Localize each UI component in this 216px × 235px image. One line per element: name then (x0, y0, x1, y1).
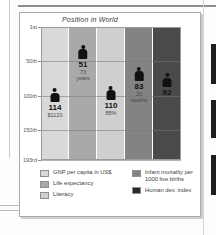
legend-swatch (132, 187, 141, 194)
legend-swatch (132, 170, 141, 177)
legend-item[interactable]: Life expectancy (40, 180, 126, 188)
legend-item-label: GNP per capita in US$ (53, 169, 112, 176)
y-axis-tick-label: 193rd (23, 157, 37, 163)
legend-item-label: Infant mortality per1000 live births (145, 169, 193, 183)
y-axis-tick-label: 100th (23, 93, 37, 99)
chart-title: Position in World (62, 16, 118, 23)
page-side-tab-2 (211, 100, 216, 138)
page-left-rule-lower (0, 210, 20, 211)
page-side-tab-1 (211, 44, 216, 84)
legend-item[interactable]: Human dev. index (132, 187, 202, 195)
y-axis: 1st50th100th150th193rd (20, 27, 41, 160)
page-right-margin-line (203, 0, 204, 235)
y-axis-tick-label: 50th (26, 58, 37, 64)
legend-item[interactable]: Infant mortality per1000 live births (132, 169, 202, 183)
chart-legend: GNP per capita in US$Life expectancyLite… (40, 169, 198, 211)
legend-column-right: Infant mortality per1000 live birthsHuma… (132, 169, 202, 198)
legend-item-label: Life expectancy (53, 180, 93, 187)
legend-swatch (40, 170, 49, 177)
page-left-rule-upper (0, 205, 20, 206)
legend-item-label: Literacy (53, 191, 73, 198)
legend-item[interactable]: Literacy (40, 191, 126, 199)
y-axis-tick-label: 1st (30, 24, 37, 30)
figure-card: Position in World 1st50th100th150th193rd… (19, 12, 201, 217)
legend-item[interactable]: GNP per capita in US$ (40, 169, 126, 177)
legend-swatch (40, 181, 49, 188)
gridline (41, 160, 181, 161)
legend-column-left: GNP per capita in US$Life expectancyLite… (40, 169, 126, 202)
legend-swatch (40, 192, 49, 199)
page-left-column-edge (0, 0, 10, 158)
plot-frame (41, 27, 181, 160)
y-axis-tick-label: 150th (23, 127, 37, 133)
plot-area: 114$11205173years11085%8320deaths92 (41, 27, 181, 160)
page-top-rule (18, 5, 216, 7)
legend-item-label: Human dev. index (145, 187, 191, 194)
page-side-tab-3 (211, 155, 216, 195)
